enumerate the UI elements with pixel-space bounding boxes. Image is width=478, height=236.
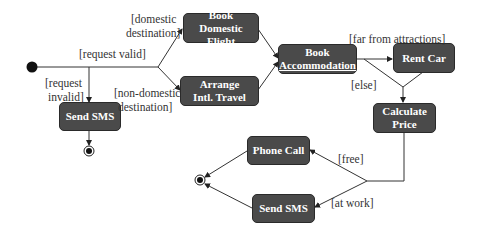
guard-domestic-line2: destination] — [126, 26, 180, 40]
node-label: Send SMS — [259, 202, 308, 215]
guard-request-invalid-line1: [request — [45, 76, 82, 90]
node-label: Arrange — [193, 78, 246, 91]
guard-at-work: [at work] — [331, 196, 373, 210]
guard-else: [else] — [351, 78, 377, 92]
node-label: Accommodation — [279, 59, 356, 72]
guard-non-domestic-line1: [non-domestic — [114, 86, 180, 100]
action-book-domestic-flight[interactable]: BookDomestic Flight — [183, 13, 259, 43]
node-label: Phone Call — [253, 144, 305, 157]
action-phone-call[interactable]: Phone Call — [247, 136, 310, 165]
guard-free: [free] — [338, 152, 364, 166]
guard-request-invalid-line2: invalid] — [48, 90, 84, 104]
node-label: Calculate — [382, 105, 427, 118]
node-label: Send SMS — [66, 110, 115, 123]
node-label: Rent Car — [402, 52, 446, 65]
node-label: Price — [382, 118, 427, 131]
activity-diagram: BookDomestic Flight ArrangeIntl. Travel … — [0, 0, 478, 236]
action-send-sms-bottom[interactable]: Send SMS — [252, 194, 315, 223]
guard-domestic-line1: [domestic — [131, 12, 176, 26]
action-rent-car[interactable]: Rent Car — [393, 43, 455, 73]
node-label: Book — [279, 46, 356, 59]
guard-far-from-attractions: [far from attractions] — [349, 32, 445, 46]
final-node-left — [84, 146, 94, 156]
action-arrange-intl-travel[interactable]: ArrangeIntl. Travel — [180, 76, 259, 106]
final-node-bottom — [195, 175, 205, 185]
guard-non-domestic-line2: destination] — [118, 100, 172, 114]
action-calculate-price[interactable]: CalculatePrice — [373, 103, 436, 133]
node-label: Intl. Travel — [193, 91, 246, 104]
action-send-sms-left[interactable]: Send SMS — [59, 102, 121, 131]
action-book-accommodation[interactable]: BookAccommodation — [278, 44, 357, 74]
initial-node — [27, 62, 38, 73]
node-label: Book — [184, 9, 258, 22]
guard-request-valid: [request valid] — [79, 47, 146, 61]
node-label: Domestic Flight — [184, 22, 258, 48]
